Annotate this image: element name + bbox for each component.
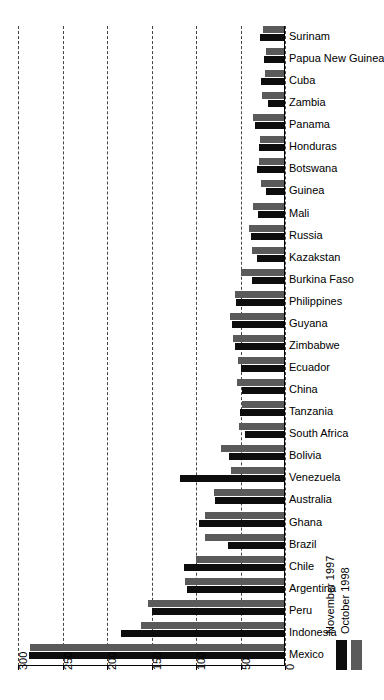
gridline-0 [285,26,286,666]
bar-october-1998 [253,114,285,121]
bar-october-1998 [185,578,285,585]
zero-axis-line [284,26,285,666]
bar-october-1998 [253,203,285,210]
category-label: Tanzania [289,406,333,417]
bar-row [18,556,285,578]
category-label: Papua New Guinea [289,53,384,64]
category-label: Honduras [289,141,337,152]
bar-november-1997 [258,211,285,218]
category-label: Bolivia [289,450,321,461]
bar-october-1998 [265,70,285,77]
bar-row [18,225,285,247]
bar-october-1998 [263,26,285,33]
category-label: Mali [289,208,309,219]
bar-row [18,269,285,291]
bar-october-1998 [261,180,285,187]
bar-october-1998 [233,335,285,342]
bar-november-1997 [187,586,285,593]
bar-october-1998 [196,556,285,563]
bar-october-1998 [239,423,285,430]
plot-area [18,26,285,666]
category-label: Russia [289,230,323,241]
category-label: Peru [289,605,312,616]
bar-october-1998 [262,92,285,99]
bar-november-1997 [264,56,285,63]
bar-november-1997 [255,122,285,129]
bar-november-1997 [251,233,285,240]
bar-november-1997 [215,497,285,504]
x-tick-label-text: 300 [17,652,29,670]
bar-row [18,26,285,48]
category-label: Australia [289,494,332,505]
category-label: Surinam [289,31,330,42]
bar-november-1997 [260,34,285,41]
bar-november-1997 [232,321,285,328]
bar-november-1997 [241,365,285,372]
x-tick-label-text: 150 [151,652,163,670]
category-label: Mexico [289,649,324,660]
bar-october-1998 [205,534,285,541]
bar-november-1997 [228,542,285,549]
category-label: Ecuador [289,362,330,373]
category-label: Guinea [289,185,324,196]
bar-row [18,512,285,534]
category-label: Venezuela [289,472,340,483]
bar-october-1998 [231,467,285,474]
bar-row [18,70,285,92]
bar-november-1997 [242,387,285,394]
bar-row [18,600,285,622]
bar-row [18,247,285,269]
category-label: Panama [289,119,330,130]
bar-october-1998 [252,247,285,254]
bar-row [18,423,285,445]
bar-november-1997 [236,299,285,306]
bar-october-1998 [242,401,285,408]
legend-label: November 1997 [324,556,336,634]
bar-october-1998 [205,512,285,519]
bar-november-1997 [152,608,286,615]
bar-november-1997 [261,78,285,85]
legend: November 1997October 1998 [336,520,382,680]
category-label: China [289,384,318,395]
category-label: Ghana [289,517,322,528]
bar-row [18,467,285,489]
bar-row [18,158,285,180]
category-label: Chile [289,561,314,572]
bar-october-1998 [221,445,285,452]
x-tick-label-text: 100 [195,652,207,670]
bar-row [18,357,285,379]
bar-row [18,291,285,313]
bar-october-1998 [148,600,285,607]
legend-swatch [336,640,347,670]
category-label: South Africa [289,428,348,439]
bar-november-1997 [259,144,285,151]
category-label: Cuba [289,75,315,86]
bar-november-1997 [235,343,285,350]
bar-october-1998 [237,379,285,386]
bar-october-1998 [230,313,285,320]
category-label: Guyana [289,318,328,329]
bar-row [18,445,285,467]
legend-swatch [351,640,362,670]
bar-row [18,92,285,114]
bar-november-1997 [257,166,285,173]
bar-row [18,622,285,644]
legend-label: October 1998 [339,567,351,634]
category-label: Philippines [289,296,342,307]
x-tick-label-text: 250 [62,652,74,670]
bar-october-1998 [238,357,285,364]
bar-november-1997 [229,453,285,460]
bar-october-1998 [266,48,285,55]
bar-october-1998 [249,225,285,232]
bar-november-1997 [252,277,285,284]
bar-october-1998 [259,158,285,165]
bar-row [18,136,285,158]
bar-chart: SurinamPapua New GuineaCubaZambiaPanamaH… [0,0,384,700]
bar-october-1998 [241,269,286,276]
bar-row [18,48,285,70]
bar-october-1998 [235,291,285,298]
x-tick-label-text: 50 [240,658,252,670]
category-label: Botswana [289,163,337,174]
bar-october-1998 [260,136,285,143]
bar-row [18,379,285,401]
